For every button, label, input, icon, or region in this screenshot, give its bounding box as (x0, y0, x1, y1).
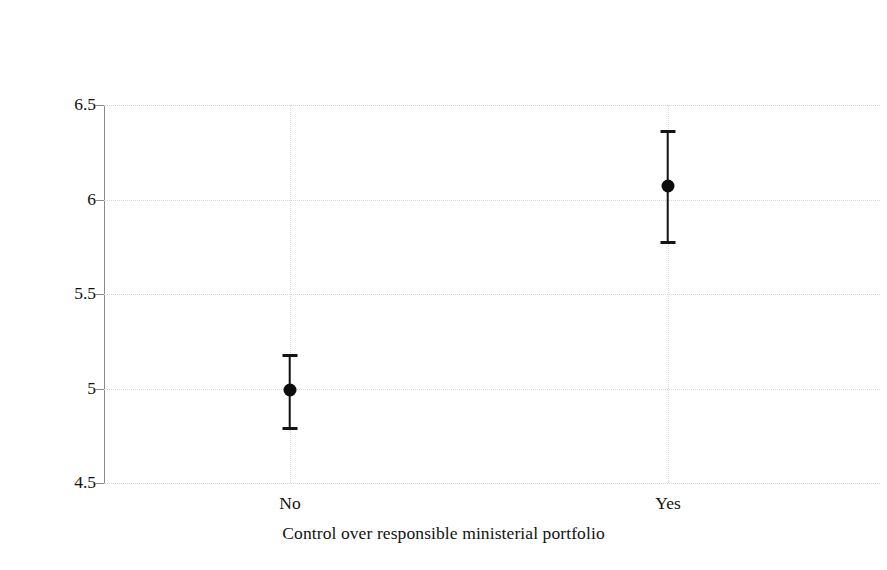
gridline-y-5 (104, 389, 880, 390)
errorbar-cap-lower-yes (661, 241, 676, 244)
gridline-y-5-5 (104, 294, 880, 295)
x-tick-label-yes: Yes (588, 494, 748, 513)
y-tick-label-5-5: 5.5 (44, 285, 96, 303)
y-tick-label-4-5: 4.5 (44, 474, 96, 492)
errorbar-cap-upper-no (283, 354, 298, 357)
figure-canvas: Predicted issue-specific policy distance… (0, 0, 887, 570)
y-tick-label-6-5: 6.5 (44, 96, 96, 114)
errorbar-cap-upper-yes (661, 130, 676, 133)
y-tick-label-5: 5 (44, 380, 96, 398)
plot-area (104, 105, 880, 483)
y-tick-mark-5 (95, 389, 104, 390)
errorbar-cap-lower-no (283, 427, 298, 430)
y-tick-label-6: 6 (44, 191, 96, 209)
gridline-y-4-5 (104, 483, 880, 484)
y-tick-mark-6-5 (95, 105, 104, 106)
y-tick-mark-5-5 (95, 294, 104, 295)
y-tick-mark-6 (95, 200, 104, 201)
y-axis-tick-labels: 4.5 5 5.5 6 6.5 (40, 0, 96, 570)
y-tick-mark-4-5 (95, 483, 104, 484)
x-tick-label-no: No (210, 494, 370, 513)
x-axis-title: Control over responsible ministerial por… (0, 524, 887, 543)
data-point-yes (662, 180, 675, 193)
gridline-y-6-5 (104, 105, 880, 106)
data-point-no (284, 384, 297, 397)
gridline-y-6 (104, 200, 880, 201)
